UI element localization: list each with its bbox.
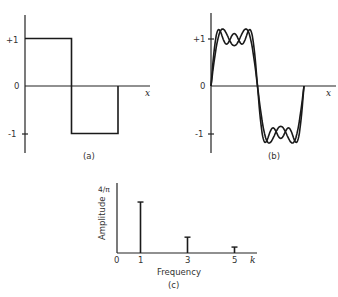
c-k-symbol: k — [250, 255, 255, 265]
figure: +1 0 -1 x (a) +1 0 -1 x (b) 4/π Amplitud… — [0, 0, 338, 297]
c-xtick-0: 0 — [114, 255, 119, 265]
b-caption: (b) — [268, 151, 280, 161]
a-caption: (a) — [83, 151, 95, 161]
b-ytick-plus1: +1 — [193, 34, 206, 44]
b-ytick-0: 0 — [200, 81, 205, 91]
panel-a: +1 0 -1 x (a) — [6, 15, 150, 161]
a-ytick-minus1: -1 — [8, 129, 16, 139]
a-xlabel: x — [145, 88, 150, 98]
panel-b: +1 0 -1 x (b) — [193, 13, 336, 161]
c-xtick-5: 5 — [232, 255, 237, 265]
a-ytick-plus1: +1 — [6, 35, 19, 45]
c-xlabel: Frequency — [157, 267, 201, 277]
panel-c: 4/π Amplitude 0 135 k Frequency (c) — [97, 183, 257, 290]
a-ytick-0: 0 — [14, 81, 19, 91]
c-ytick-top: 4/π — [98, 185, 110, 194]
c-xtick-1: 1 — [138, 255, 143, 265]
c-caption: (c) — [168, 280, 179, 290]
c-ylabel: Amplitude — [97, 196, 107, 240]
b-xlabel: x — [326, 88, 331, 98]
c-xtick-3: 3 — [185, 255, 190, 265]
b-ytick-minus1: -1 — [195, 129, 203, 139]
